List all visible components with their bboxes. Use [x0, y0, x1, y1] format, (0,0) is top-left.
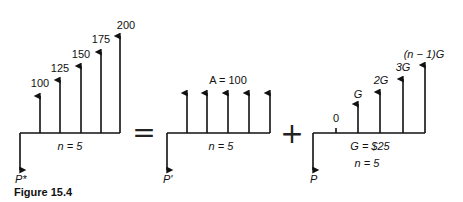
present-value-label: P* — [15, 173, 27, 185]
cash-flow-label: 0 — [333, 112, 339, 124]
plus-sign: + — [280, 117, 303, 150]
annuity-label: A = 100 — [209, 74, 247, 86]
arithmetic-gradient-diagram: 0 G 2G 3G (n − 1)G G = $25 n = 5 P — [310, 48, 445, 185]
cash-flow-label: 3G — [396, 61, 411, 73]
cash-flow-label: (n − 1)G — [404, 48, 445, 60]
cash-flow-label: 100 — [31, 77, 49, 89]
period-label: n = 5 — [209, 140, 235, 152]
period-label: n = 5 — [355, 157, 381, 169]
cash-flow-figure: 100 125 150 175 200 n = 5 P* = A = 100 n… — [0, 0, 463, 202]
period-label: n = 5 — [58, 140, 84, 152]
uniform-series-diagram: A = 100 n = 5 P' — [163, 74, 270, 185]
present-value-label: P' — [163, 173, 173, 185]
cash-flow-label: G — [354, 88, 363, 100]
cash-flow-label: 200 — [117, 19, 135, 31]
figure-caption: Figure 15.4 — [14, 186, 73, 198]
cash-flow-label: 125 — [51, 62, 69, 74]
present-value-label: P — [310, 173, 318, 185]
cash-flow-label: 150 — [72, 48, 90, 60]
cash-flow-label: 175 — [92, 33, 110, 45]
gradient-label: G = $25 — [350, 140, 390, 152]
gradient-series-diagram: 100 125 150 175 200 n = 5 P* — [15, 19, 135, 185]
cash-flow-label: 2G — [373, 74, 389, 86]
equals-sign: = — [132, 116, 155, 149]
